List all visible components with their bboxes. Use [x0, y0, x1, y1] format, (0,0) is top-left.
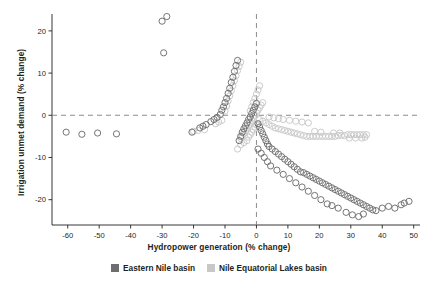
chart-legend: Eastern Nile basin Nile Equatorial Lakes…: [0, 263, 438, 273]
svg-text:10: 10: [38, 69, 46, 78]
svg-text:40: 40: [378, 231, 386, 240]
axes: [49, 14, 421, 229]
scatter-chart: -60-50-40-30-20-100102030405020100-10-20…: [0, 0, 438, 288]
reference-lines: [52, 14, 420, 225]
legend-swatch-eastern-nile: [111, 264, 119, 272]
data-points: [63, 13, 412, 219]
svg-text:20: 20: [38, 27, 46, 36]
svg-text:-10: -10: [35, 153, 46, 162]
svg-text:-30: -30: [157, 231, 168, 240]
svg-text:-60: -60: [62, 231, 73, 240]
svg-text:-20: -20: [35, 195, 46, 204]
svg-text:0: 0: [42, 111, 46, 120]
svg-text:30: 30: [347, 231, 355, 240]
svg-text:50: 50: [409, 231, 417, 240]
y-axis-title: Irrigation unmet demand (% change): [16, 49, 26, 196]
svg-text:-40: -40: [125, 231, 136, 240]
svg-text:0: 0: [254, 231, 258, 240]
legend-label-eastern-nile: Eastern Nile basin: [123, 263, 195, 273]
svg-text:-10: -10: [219, 231, 230, 240]
x-axis-title: Hydropower generation (% change): [0, 242, 438, 252]
legend-swatch-nile-equatorial-lakes: [207, 264, 215, 272]
svg-text:-50: -50: [94, 231, 105, 240]
legend-label-nile-equatorial-lakes: Nile Equatorial Lakes basin: [219, 263, 327, 273]
svg-text:-20: -20: [188, 231, 199, 240]
legend-item-eastern-nile: Eastern Nile basin: [111, 263, 195, 273]
svg-text:10: 10: [284, 231, 292, 240]
svg-text:20: 20: [315, 231, 323, 240]
legend-item-nile-equatorial-lakes: Nile Equatorial Lakes basin: [207, 263, 327, 273]
